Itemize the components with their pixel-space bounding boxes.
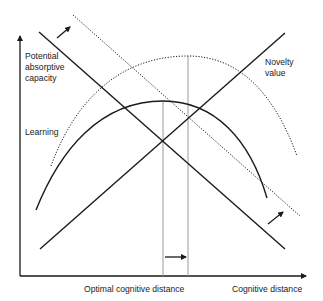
optimal-distance-label: Optimal cognitive distance [84,284,184,295]
absorptive-capacity-label-line1: Potential [25,51,58,62]
absorptive-capacity-label-line3: capacity [25,73,57,84]
shift-arrow-bottom-icon [268,212,283,224]
shift-arrow-top-icon [57,27,70,38]
learning-label: Learning [25,127,58,138]
novelty-value-label-line2: value [265,68,286,79]
shifted-learning-curve [51,56,297,166]
x-axis-label: Cognitive distance [232,284,302,295]
absorptive-capacity-label-line2: absorptive [25,62,65,73]
novelty-value-label-line1: Novelty [265,57,294,68]
learning-curve [36,101,267,210]
cognitive-distance-diagram [0,0,323,301]
